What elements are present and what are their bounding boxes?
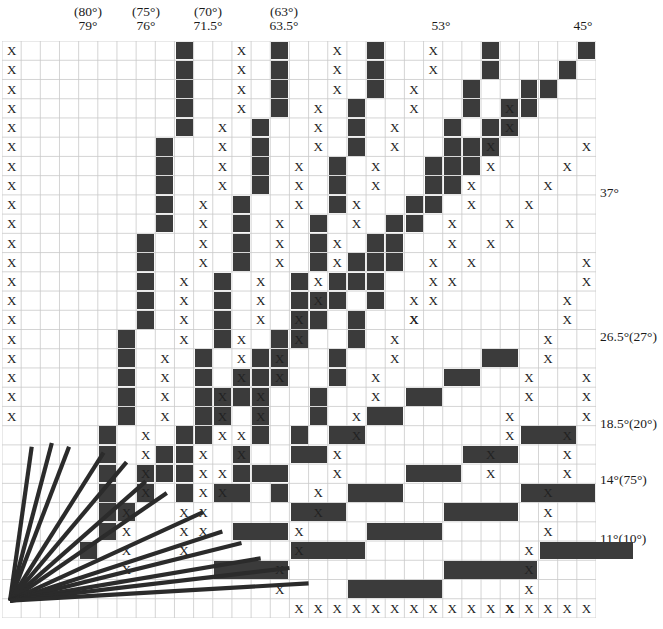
top-angle-label: 45°: [543, 19, 623, 33]
ideal-ray-lines-layer: [2, 41, 596, 618]
right-angle-label: 37°: [600, 186, 619, 200]
right-angle-label: 14°(75°): [600, 473, 647, 487]
line-rasterization-figure: (80°)79°(75°)76°(70°)71.5°(63°)63.5°53°4…: [0, 0, 663, 629]
raster-grid: XXXXXXXXXXXXXXXXXXXXXXXXXXXXXXXXXXXXXXXX…: [2, 41, 596, 618]
angle-label-value: 63.5°: [244, 19, 324, 33]
top-angle-label: (63°)63.5°: [244, 5, 324, 33]
angle-label-value: 71.5°: [168, 19, 248, 33]
angle-label-parenthetical: (63°): [244, 5, 324, 19]
angle-label-parenthetical: (70°): [168, 5, 248, 19]
top-angle-label: 53°: [401, 19, 481, 33]
top-angle-label: (70°)71.5°: [168, 5, 248, 33]
angle-label-value: 45°: [543, 19, 623, 33]
right-angle-label: 18.5°(20°): [600, 417, 657, 431]
angle-label-value: 53°: [401, 19, 481, 33]
right-angle-label: 26.5°(27°): [600, 330, 657, 344]
